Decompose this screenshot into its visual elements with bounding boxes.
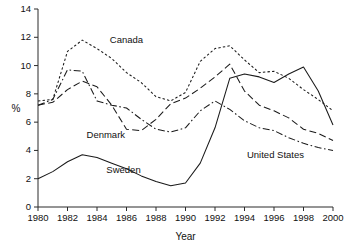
axis-frame [38, 9, 333, 207]
unemployment-rate-line-chart: 02468101214 1980198219841986198819901992… [0, 0, 347, 249]
chart-series-annotations: CanadaDenmarkSwedenUnited States [87, 34, 305, 175]
y-tick-label: 4 [26, 144, 31, 155]
y-tick-label: 2 [26, 173, 31, 184]
x-tick-label: 1996 [263, 212, 284, 223]
y-tick-label: 14 [20, 3, 31, 14]
x-tick-label: 1988 [145, 212, 166, 223]
y-tick-label: 0 [26, 201, 31, 212]
y-axis-title: % [12, 103, 21, 114]
x-tick-label: 1982 [57, 212, 78, 223]
y-tick-label: 8 [26, 88, 31, 99]
y-tick-label: 10 [20, 60, 31, 71]
chart-series-lines [38, 40, 333, 186]
x-tick-label: 1984 [86, 212, 107, 223]
x-axis-ticks: 1980198219841986198819901992199419961998… [27, 207, 343, 223]
y-tick-label: 12 [20, 31, 31, 42]
x-tick-label: 1994 [234, 212, 255, 223]
chart-plot-area: 02468101214 1980198219841986198819901992… [0, 0, 347, 249]
series-label-united-states: United States [247, 149, 304, 160]
x-tick-label: 1980 [27, 212, 48, 223]
y-tick-label: 6 [26, 116, 31, 127]
series-label-sweden: Sweden [106, 164, 140, 175]
series-label-canada: Canada [110, 34, 144, 45]
y-axis-ticks: 02468101214 [20, 3, 38, 212]
series-label-denmark: Denmark [87, 129, 126, 140]
series-line-united-states [38, 70, 333, 151]
x-tick-label: 1992 [204, 212, 225, 223]
series-line-denmark [38, 64, 333, 140]
series-line-canada [38, 40, 333, 111]
x-tick-label: 1990 [175, 212, 196, 223]
x-tick-label: 1986 [116, 212, 137, 223]
x-tick-label: 1998 [293, 212, 314, 223]
x-axis-title: Year [175, 231, 196, 242]
chart-axes [38, 9, 333, 207]
x-tick-label: 2000 [322, 212, 343, 223]
series-line-sweden [38, 67, 333, 186]
